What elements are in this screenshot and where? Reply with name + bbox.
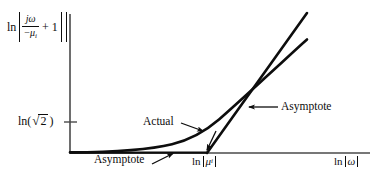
radicand: 2 — [38, 114, 48, 129]
tick-label-ln-open: ln( — [18, 115, 31, 127]
y-axis-label-numerator: jω — [24, 14, 38, 25]
x-tick-abs-bar-left — [203, 156, 204, 167]
annotation-asymptote-high-frequency: Asymptote — [281, 101, 331, 113]
sloped-asymptote — [207, 13, 307, 153]
y-axis-label-abs-bar-inner — [61, 12, 62, 42]
y-tick-label-ln-sqrt2: ln( √ 2 ) — [18, 114, 53, 129]
actual-leader-line — [181, 123, 203, 131]
x-tick-abs-bar-right — [215, 156, 216, 167]
denominator-subscript: i — [35, 31, 37, 39]
actual-curve — [70, 39, 307, 152]
x-axis-symbol: ω — [348, 156, 356, 167]
y-axis-label-abs-bar-right — [66, 12, 67, 42]
x-tick-subscript: i — [211, 158, 213, 165]
radical-group: √ 2 — [32, 114, 48, 129]
x-axis-label: ln ω — [334, 156, 360, 167]
tick-label-close-paren: ) — [49, 115, 53, 127]
x-axis-label-ln: ln — [334, 156, 343, 167]
x-axis-abs-bar-right — [357, 156, 358, 167]
y-axis-label-abs-bar-left — [19, 12, 20, 42]
y-axis-label-denominator: −μi — [22, 28, 39, 40]
y-axis-label: ln jω −μi + 1 — [7, 12, 69, 42]
x-tick-label-ln-mu-i: ln μ i — [192, 156, 218, 167]
y-axis-label-fraction: jω −μi — [22, 14, 39, 39]
x-tick-label-ln: ln — [192, 156, 201, 167]
bode-magnitude-plot-figure: ln jω −μi + 1 ln( √ 2 ) ln μ i ln ω Actu… — [0, 0, 387, 178]
y-axis-label-plus-one: + 1 — [42, 21, 58, 33]
x-axis-abs-bar-left — [345, 156, 346, 167]
asymptote-low-leader-line — [152, 154, 173, 165]
y-axis-label-ln: ln — [7, 21, 16, 33]
annotation-asymptote-low-frequency: Asymptote — [94, 154, 144, 166]
annotation-actual: Actual — [143, 116, 174, 128]
